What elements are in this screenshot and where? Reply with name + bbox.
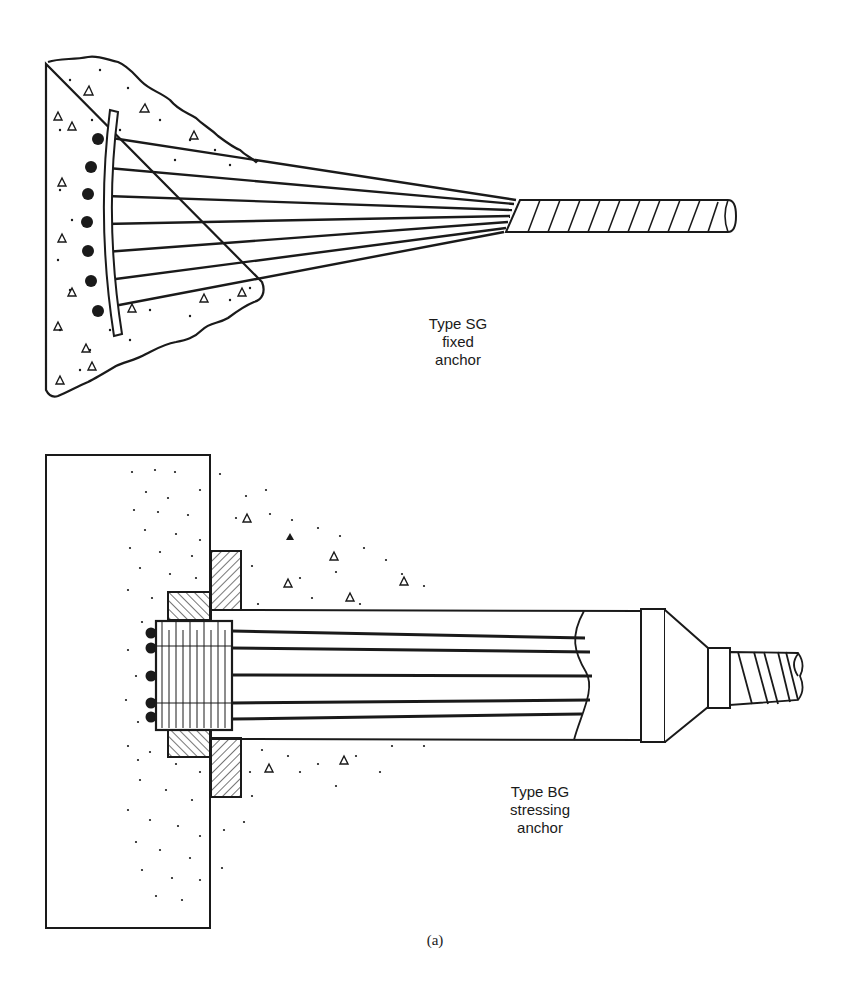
- duct-sleeve: [708, 648, 730, 708]
- fixed-anchor-label-line3: anchor: [435, 351, 481, 368]
- anchor-diagram: Type SG fixed anchor: [0, 0, 855, 994]
- anchor-plate-bottom: [168, 730, 211, 757]
- sheathed-tendon: [506, 200, 736, 232]
- fixed-anchor-label-line2: fixed: [442, 333, 474, 350]
- strand-fan: [104, 138, 516, 306]
- corrugated-duct: [730, 652, 803, 705]
- stressing-anchor-drawing: Type BG stressing anchor: [46, 455, 803, 928]
- anchor-plate-top: [168, 592, 211, 620]
- strand-end-buttons: [81, 133, 104, 317]
- fixed-anchor-drawing: Type SG fixed anchor: [46, 57, 736, 397]
- concrete-mass: [46, 57, 264, 397]
- bearing-plate-top: [211, 551, 241, 610]
- bearing-plate-bottom: [211, 738, 241, 797]
- transition-cone: [665, 610, 708, 742]
- stressing-anchor-label-line2: stressing: [510, 801, 570, 818]
- anchor-head: [156, 621, 232, 730]
- figure-caption: (a): [427, 932, 444, 949]
- collar-ring: [641, 609, 665, 742]
- fixed-anchor-label-line1: Type SG: [429, 315, 487, 332]
- stressing-anchor-label-line3: anchor: [517, 819, 563, 836]
- strands: [232, 631, 592, 719]
- stressing-anchor-label-line1: Type BG: [511, 783, 569, 800]
